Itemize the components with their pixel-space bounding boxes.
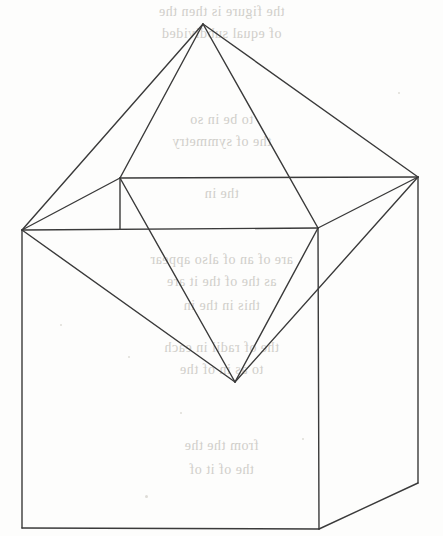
south-to-nadir — [235, 228, 318, 382]
apex-to-east — [203, 24, 418, 177]
figure-edge-group — [22, 24, 418, 529]
south-to-east — [318, 177, 418, 228]
cube-vert-front — [318, 228, 319, 529]
north-to-nadir — [120, 178, 235, 382]
east-to-nadir — [235, 177, 418, 382]
apex-to-south — [203, 24, 318, 228]
west-to-nadir — [22, 230, 235, 382]
cube-bottom-right — [319, 483, 418, 529]
west-to-north — [22, 178, 120, 230]
cube-bottom-front — [22, 528, 319, 529]
scanned-page: the figure is then theof equal subdivide… — [0, 0, 443, 536]
north-to-east — [120, 177, 418, 178]
apex-to-north — [120, 24, 203, 178]
octahedron-on-cube-figure — [0, 0, 443, 536]
apex-to-west — [22, 24, 203, 230]
west-to-south — [22, 228, 318, 230]
